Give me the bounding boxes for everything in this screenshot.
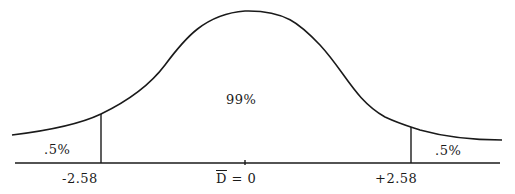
right-tail-area-label: .5%	[435, 144, 461, 158]
center-equals-zero: = 0	[232, 171, 257, 186]
center-value-label: D = 0	[216, 172, 256, 186]
left-tail-area-label: .5%	[44, 143, 70, 157]
d-bar-symbol: D	[216, 171, 227, 186]
right-critical-value-label: +2.58	[375, 172, 417, 186]
bell-curve	[12, 11, 502, 140]
left-critical-value-label: -2.58	[62, 172, 98, 186]
normal-distribution-diagram	[0, 0, 515, 194]
center-area-label: 99%	[226, 93, 256, 107]
